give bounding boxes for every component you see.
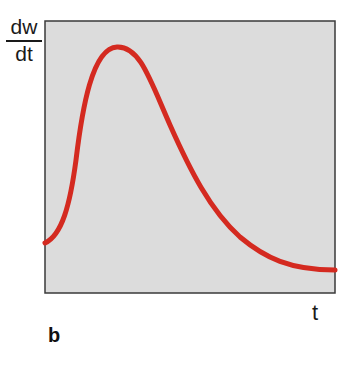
chart-plot: [0, 0, 346, 367]
x-axis-label: t: [312, 300, 318, 326]
panel-label: b: [48, 324, 60, 347]
plot-area: [45, 21, 335, 293]
